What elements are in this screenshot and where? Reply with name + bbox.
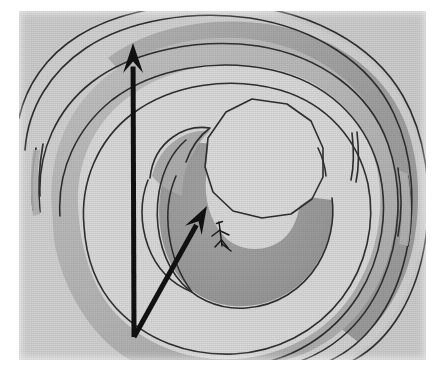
vertical-arrow-shaft (131, 66, 137, 337)
contour-figure-svg (0, 0, 437, 367)
figure-root (0, 0, 437, 367)
